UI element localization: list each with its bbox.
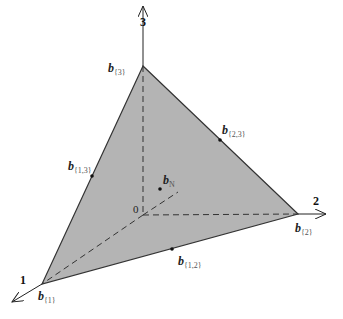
point-b23 — [218, 138, 222, 142]
simplex-face — [42, 66, 298, 284]
point-b12 — [170, 247, 174, 251]
label-b3: b{3} — [108, 61, 126, 77]
point-bN — [158, 187, 162, 191]
axis-label-1: 1 — [20, 273, 26, 287]
label-b13: b{1,3} — [68, 159, 92, 175]
label-b23: b{2,3} — [222, 123, 246, 139]
label-b12: b{1,2} — [178, 254, 202, 270]
axis-label-2: 2 — [313, 194, 319, 208]
label-b2: b{2} — [295, 221, 313, 237]
label-b1: b{1} — [38, 289, 56, 305]
simplex-diagram: 3 2 1 0 b{3} b{2,3} b{1,3} bN b{2} b{1,2… — [0, 0, 343, 319]
axis-label-3: 3 — [140, 15, 146, 29]
origin-label: 0 — [133, 203, 139, 215]
